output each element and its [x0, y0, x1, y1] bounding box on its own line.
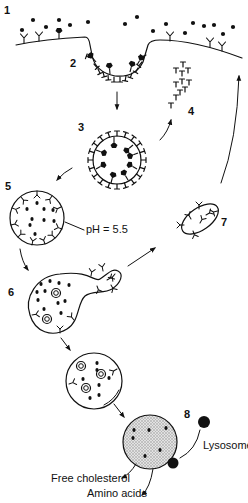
plasma-membrane [16, 37, 242, 76]
step-label-1: 1 [4, 4, 10, 16]
fusing-lysosome [168, 458, 179, 469]
endosome [10, 191, 64, 246]
arrow-3-to-5 [57, 168, 72, 180]
free-cholesterol-label: Free cholesterol [51, 472, 130, 484]
step-label-3: 3 [78, 121, 84, 133]
ph-label: pH = 5.5 [86, 223, 128, 235]
primary-lysosome [180, 416, 210, 458]
lysosome-label: Lysosome [203, 439, 248, 451]
arrow-6-to-late-endosome [61, 338, 70, 350]
endocytosis-diagram: pH = 5.5 [0, 0, 248, 503]
arrow-6-to-7 [128, 248, 155, 266]
late-endosome [66, 353, 122, 409]
secondary-lysosome [123, 415, 179, 469]
step-label-7: 7 [221, 216, 227, 228]
clathrin-released [169, 62, 192, 108]
step-label-2: 2 [70, 57, 76, 69]
step-label-8: 8 [184, 408, 190, 420]
arrow-7-to-membrane [221, 76, 239, 183]
step-label-5: 5 [5, 180, 11, 192]
recycling-vesicle [176, 198, 223, 240]
coated-vesicle [88, 131, 146, 189]
arrow-to-secondary-lysosome [114, 404, 124, 417]
step-label-6: 6 [8, 286, 14, 298]
step-label-4: 4 [188, 105, 195, 117]
sorting-compartment [28, 264, 121, 334]
arrow-5-to-6 [20, 249, 28, 270]
ldl-particles [20, 15, 235, 36]
ph-leader-line [65, 222, 84, 230]
coated-pit [85, 51, 147, 82]
amino-acids-label: Amino acids [87, 487, 147, 499]
arrow-3-to-4 [160, 120, 171, 140]
